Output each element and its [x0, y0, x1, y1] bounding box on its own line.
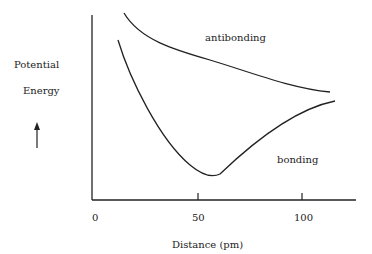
tick-label-0: 0: [92, 213, 98, 223]
antibonding-label: antibonding: [205, 33, 266, 43]
antibonding-curve: [124, 13, 330, 92]
ylabel-energy: Energy: [23, 86, 60, 96]
bonding-label: bonding: [277, 155, 318, 165]
tick-label-50: 50: [192, 213, 205, 223]
xlabel: Distance (pm): [172, 240, 243, 250]
tick-label-100: 100: [294, 213, 313, 223]
ylabel-potential: Potential: [14, 60, 59, 70]
energy-chart: [0, 0, 372, 254]
arrow-head: [34, 122, 40, 130]
